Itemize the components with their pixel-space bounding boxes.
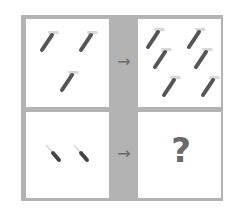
screwdriver-icon <box>74 145 87 160</box>
hammer-icon <box>62 71 79 90</box>
screwdriver-icon <box>46 145 59 160</box>
hammer-icon <box>81 31 98 50</box>
hammer-icon <box>189 28 206 47</box>
hammer-icon <box>196 48 213 67</box>
hammer-icon <box>148 28 165 47</box>
hammer-icon <box>155 48 172 67</box>
hammer-icon <box>164 76 181 95</box>
hammer-icon <box>42 31 59 50</box>
hammer-icon <box>203 76 220 95</box>
tools-layer <box>0 0 230 217</box>
